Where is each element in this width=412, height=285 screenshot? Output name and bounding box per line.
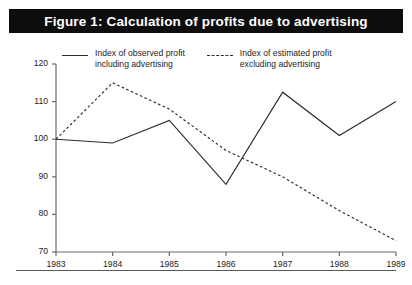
series-line-estimated [56,83,396,241]
figure-container: Figure 1: Calculation of profits due to … [0,0,412,285]
chart-series [56,83,396,241]
series-line-observed [56,92,396,184]
x-axis-tick-label: 1985 [145,259,193,269]
x-axis-tick-label: 1988 [315,259,363,269]
y-axis-tick-label: 90 [14,171,48,181]
x-axis-tick-label: 1984 [89,259,137,269]
y-axis-tick-label: 80 [14,208,48,218]
x-axis-tick-label: 1986 [202,259,250,269]
footer-rule [16,270,396,271]
y-axis-tick-label: 110 [14,96,48,106]
chart-axes [52,64,396,256]
x-axis-tick-label: 1989 [372,259,412,269]
y-axis-tick-label: 70 [14,246,48,256]
chart-plot-area [0,0,412,285]
x-axis-tick-label: 1983 [32,259,80,269]
y-axis-tick-label: 100 [14,133,48,143]
x-axis-tick-label: 1987 [259,259,307,269]
y-axis-tick-label: 120 [14,58,48,68]
